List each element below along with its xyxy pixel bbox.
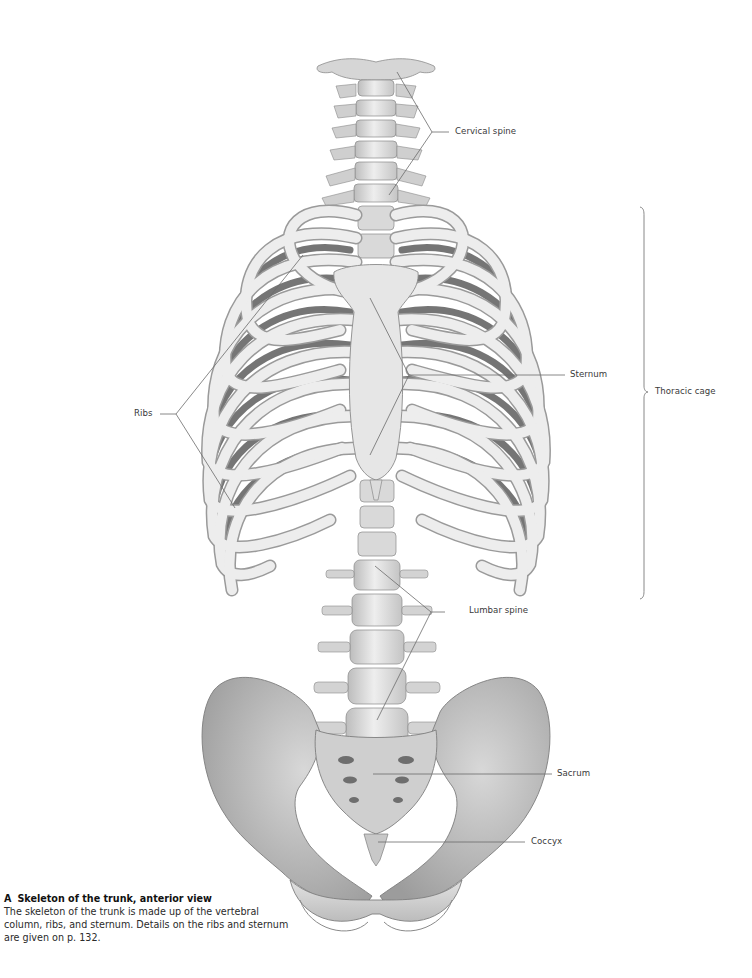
thoracic-brace <box>640 207 648 599</box>
sacrum-bone <box>315 730 437 834</box>
label-lumbar-spine: Lumbar spine <box>469 605 528 615</box>
skeleton-illustration <box>0 0 752 978</box>
figure-title: Skeleton of the trunk, anterior view <box>17 893 211 904</box>
figure-caption: ASkeleton of the trunk, anterior view Th… <box>4 892 294 944</box>
label-sacrum: Sacrum <box>557 768 590 778</box>
label-thoracic-cage: Thoracic cage <box>655 386 716 396</box>
label-coccyx: Coccyx <box>531 836 562 846</box>
atlas <box>317 59 435 80</box>
skeleton-figure: Cervical spine Thoracic cage Sternum Rib… <box>0 0 752 978</box>
caption-title-line: ASkeleton of the trunk, anterior view <box>4 892 294 905</box>
caption-body: The skeleton of the trunk is made up of … <box>4 905 294 944</box>
figure-letter: A <box>4 893 11 904</box>
coccyx-bone <box>364 834 388 866</box>
label-ribs: Ribs <box>134 408 153 418</box>
label-cervical-spine: Cervical spine <box>455 126 516 136</box>
label-sternum: Sternum <box>570 369 607 379</box>
